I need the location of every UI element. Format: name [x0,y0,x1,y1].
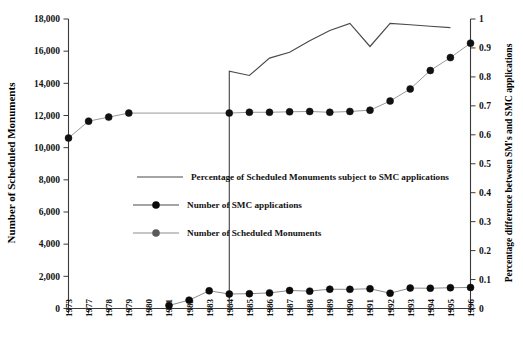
left-axis-title: Number of Scheduled Monuments [5,82,17,244]
data-point-marker [346,108,353,115]
legend-label: Number of Scheduled Monuments [187,228,322,238]
left-tick-label: 14,000 [34,79,60,89]
x-tick-label: 1992 [386,299,396,318]
x-tick-label: 1983 [205,299,215,318]
data-point-marker [326,109,333,116]
x-tick-label: 1979 [124,299,134,318]
x-tick-label: 1995 [446,299,456,318]
legend-item-2: Number of Scheduled Monuments [133,228,322,238]
x-tick-label: 1986 [265,299,275,318]
right-tick-label: 0.3 [479,217,491,227]
left-axis-ticks: 02,0004,0006,0008,00010,00012,00014,0001… [34,14,69,314]
left-tick-label: 10,000 [34,143,60,153]
x-axis-ticks: 1973197719781979198019811982198319841985… [64,299,476,318]
right-tick-label: 0.6 [479,130,491,140]
legend-swatch-marker [152,229,160,237]
data-point-marker [407,285,414,292]
series-layer [65,23,474,309]
x-axis: 1973197719781979198019811982198319841985… [64,299,476,318]
x-tick-label: 1985 [245,299,255,318]
x-tick-label: 1996 [466,299,476,318]
data-point-marker [226,110,233,117]
data-point-marker [427,67,434,74]
series-line-0 [229,23,450,308]
data-point-marker [85,118,92,125]
right-tick-label: 0.8 [479,72,491,82]
x-tick-label: 1987 [285,299,295,318]
x-tick-label: 1990 [345,299,355,318]
data-point-marker [407,85,414,92]
data-point-marker [186,297,193,304]
left-tick-label: 12,000 [34,111,60,121]
left-tick-label: 0 [55,304,60,314]
data-point-marker [387,98,394,105]
left-tick-label: 16,000 [34,46,60,56]
data-point-marker [266,289,273,296]
data-point-marker [286,287,293,294]
data-point-marker [286,108,293,115]
scheduled-monuments-chart: 02,0004,0006,0008,00010,00012,00014,0001… [0,0,523,354]
data-point-marker [206,287,213,294]
data-point-marker [306,108,313,115]
data-point-marker [125,110,132,117]
data-point-marker [65,135,72,142]
x-tick-label: 1980 [144,299,154,318]
left-tick-label: 4,000 [39,239,61,249]
legend-item-1: Number of SMC applications [133,200,302,210]
right-tick-label: 0.5 [479,159,491,169]
data-point-marker [246,109,253,116]
x-tick-label: 1989 [325,299,335,318]
data-point-marker [367,285,374,292]
left-axis: 02,0004,0006,0008,00010,00012,00014,0001… [5,14,69,314]
left-tick-label: 18,000 [34,14,60,24]
legend-swatch-marker [152,201,160,209]
x-tick-label: 1993 [406,299,416,318]
data-point-marker [226,291,233,298]
right-tick-label: 0 [479,304,484,314]
data-point-marker [105,114,112,121]
right-axis-ticks: 00.10.20.30.40.50.60.70.80.91 [471,14,492,314]
right-tick-label: 0.4 [479,188,491,198]
x-tick-label: 1978 [104,299,114,318]
data-point-marker [326,286,333,293]
x-tick-label: 1991 [365,299,375,318]
data-point-marker [447,284,454,291]
x-tick-label: 1973 [64,299,74,318]
x-tick-label: 1988 [305,299,315,318]
data-point-marker [266,109,273,116]
left-tick-label: 6,000 [39,207,61,217]
right-tick-label: 0.2 [479,246,491,256]
chart-legend: Percentage of Scheduled Monuments subjec… [133,172,449,238]
right-tick-label: 1 [479,14,484,24]
data-point-marker [346,286,353,293]
data-point-marker [246,290,253,297]
data-point-marker [166,302,173,309]
x-tick-label: 1977 [84,299,94,318]
data-point-marker [467,40,474,47]
data-point-marker [467,284,474,291]
data-point-marker [447,54,454,61]
data-point-marker [306,288,313,295]
right-tick-label: 0.1 [479,275,491,285]
left-tick-label: 2,000 [39,272,61,282]
data-point-marker [367,107,374,114]
left-tick-label: 8,000 [39,175,61,185]
right-tick-label: 0.7 [479,101,491,111]
right-axis: 00.10.20.30.40.50.60.70.80.91 Percentage… [471,14,515,314]
data-point-marker [387,290,394,297]
x-tick-label: 1994 [426,299,436,318]
legend-label: Percentage of Scheduled Monuments subjec… [191,172,449,182]
legend-item-0: Percentage of Scheduled Monuments subjec… [137,172,449,182]
right-axis-title: Percentage difference between SM's and S… [504,43,514,282]
legend-label: Number of SMC applications [187,200,302,210]
data-point-marker [427,285,434,292]
chart-container: 02,0004,0006,0008,00010,00012,00014,0001… [0,0,523,354]
right-tick-label: 0.9 [479,43,491,53]
